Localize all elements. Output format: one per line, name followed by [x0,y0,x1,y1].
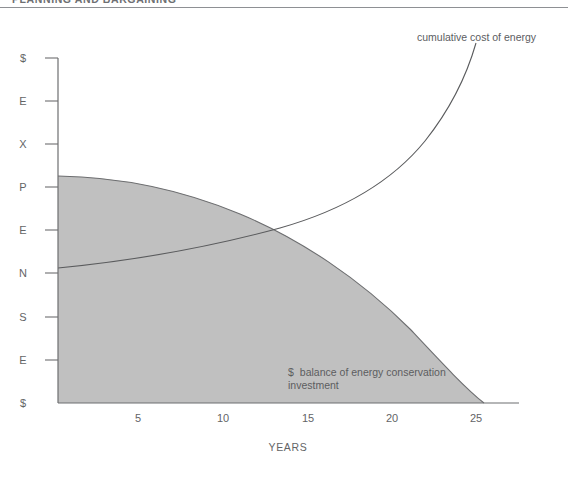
y-tick-label-0: $ [12,53,34,64]
chart-figure: $ E X P E N S E $ 5 10 15 20 25 YEARS cu… [0,9,568,477]
y-tick-label-2: X [12,139,34,150]
y-tick-label-4: E [12,225,34,236]
annotation-balance-investment: $balance of energy conservation investme… [288,366,478,392]
y-tick-label-7: E [12,355,34,366]
chart-plot-area [0,9,568,477]
page-header-title: PLANNING AND BARGAINING [12,0,177,5]
x-tick-label-5: 5 [123,413,153,424]
page-header: PLANNING AND BARGAINING [0,0,568,9]
x-tick-label-20: 20 [377,413,407,424]
y-tick-label-1: E [12,96,34,107]
x-tick-label-10: 10 [208,413,238,424]
y-axis-ticks [45,58,58,360]
y-tick-label-3: P [12,182,34,193]
y-tick-label-6: S [12,312,34,323]
x-tick-label-15: 15 [293,413,323,424]
annotation-cumulative-cost: cumulative cost of energy [417,31,536,44]
y-tick-label-8: $ [12,398,34,409]
header-divider [0,7,568,8]
y-tick-label-5: N [12,268,34,279]
dollar-symbol: $ [288,366,294,378]
x-tick-label-25: 25 [461,413,491,424]
x-axis-title: YEARS [228,441,348,453]
annotation-balance-text: balance of energy conservation investmen… [288,366,446,391]
